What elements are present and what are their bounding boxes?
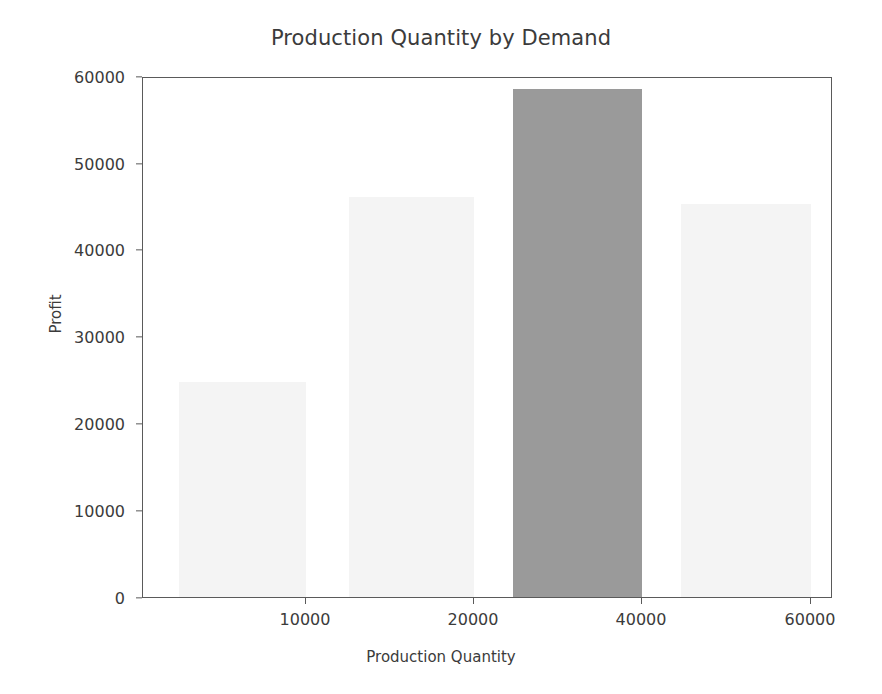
bar-3 [513, 89, 642, 597]
y-axis-label: Profit [47, 254, 65, 374]
bar-2 [349, 197, 474, 597]
y-tick-label: 10000 [15, 502, 125, 521]
y-tick-label: 30000 [15, 328, 125, 347]
x-tick-label: 10000 [235, 610, 375, 629]
y-tick-label: 50000 [15, 155, 125, 174]
bar-1 [179, 382, 306, 597]
x-tick-label: 40000 [571, 610, 711, 629]
x-tick-mark [641, 598, 642, 604]
y-tick-label: 60000 [15, 68, 125, 87]
plot-area [142, 77, 832, 598]
x-tick-mark [305, 598, 306, 604]
x-axis-label: Production Quantity [0, 648, 882, 666]
y-tick-label: 40000 [15, 241, 125, 260]
y-tick-label: 20000 [15, 415, 125, 434]
x-tick-label: 20000 [403, 610, 543, 629]
x-tick-label: 60000 [740, 610, 880, 629]
chart-figure: Production Quantity by Demand Profit 010… [0, 0, 882, 694]
x-tick-mark [473, 598, 474, 604]
x-tick-mark [810, 598, 811, 604]
y-tick-label: 0 [15, 589, 125, 608]
chart-title: Production Quantity by Demand [0, 26, 882, 50]
bar-4 [681, 204, 811, 597]
